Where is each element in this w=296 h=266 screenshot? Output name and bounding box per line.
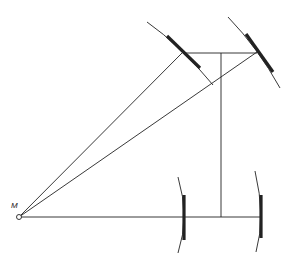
lower-right-mirror (255, 171, 261, 252)
upper-left-mirror (147, 22, 213, 85)
upper-right-mirror (228, 17, 280, 88)
label-m: M (11, 201, 18, 210)
diagram-canvas: M (0, 0, 296, 266)
interferometer-diagram: M (0, 0, 296, 266)
mirror-arc (147, 22, 213, 85)
ray-to-upper-left-mirror (19, 52, 183, 217)
lower-left-mirror (178, 177, 184, 253)
source-point-m (17, 215, 22, 220)
mirror-arc (228, 17, 280, 88)
